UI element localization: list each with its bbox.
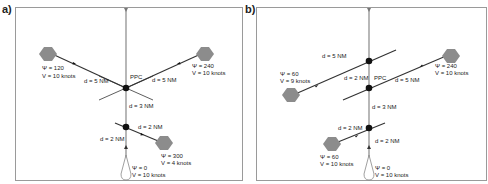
own-ship-v: V = 10 knots [132, 172, 166, 178]
lower-own-distance: d = 2 NM [375, 138, 400, 144]
own-ship-psi: Ψ = 0 [375, 165, 391, 171]
target-300-v: V = 4 knots [161, 160, 191, 166]
ppc-label: PPC [130, 74, 143, 80]
panel-a: Ψ = 120 V = 10 knots d = 5 NM Ψ = 240 V … [16, 8, 243, 181]
ppc-lower-distance: d = 3 NM [129, 103, 154, 109]
lower-own-distance: d = 2 NM [100, 136, 125, 142]
target-60-9kn-distance: d = 5 NM [322, 53, 347, 59]
diagram-canvas: Ψ = 120 V = 10 knots d = 5 NM Ψ = 240 V … [0, 0, 488, 184]
ppc-node [366, 85, 373, 92]
ppc-lower-distance: d = 3 NM [372, 104, 397, 110]
panel-a-frame [16, 8, 243, 181]
target-120-distance: d = 5 NM [84, 78, 109, 84]
target-240-psi: Ψ = 240 [192, 63, 215, 69]
cpa-node [366, 125, 373, 132]
target-240-distance: d = 5 NM [395, 77, 420, 83]
own-ship-psi: Ψ = 0 [132, 165, 148, 171]
target-60-10kn-psi: Ψ = 60 [320, 154, 339, 160]
target-60-10kn-distance: d = 2 NM [338, 125, 363, 131]
panel-b: d = 5 NM Ψ = 60 V = 9 knots d = 2 NM PPC… [257, 8, 487, 181]
target-240-psi: Ψ = 240 [435, 63, 458, 69]
own-ship-v: V = 10 knots [375, 172, 409, 178]
target-240-v: V = 10 knots [435, 70, 469, 76]
cpa-node [123, 124, 130, 131]
target-60-10kn-v: V = 10 knots [320, 161, 354, 167]
ppc-label: PPC [374, 75, 387, 81]
upper-node [366, 58, 373, 65]
upper-ppc-distance: d = 2 NM [344, 75, 369, 81]
target-300-distance: d = 2 NM [138, 124, 163, 130]
target-60-9kn-v: V = 9 knots [280, 78, 310, 84]
target-120-psi: Ψ = 120 [42, 65, 65, 71]
target-240-v: V = 10 knots [192, 70, 226, 76]
target-120-v: V = 10 knots [42, 73, 76, 79]
target-60-9kn-psi: Ψ = 60 [280, 71, 299, 77]
ppc-node [123, 85, 130, 92]
target-300-psi: Ψ = 300 [161, 153, 184, 159]
target-240-distance: d = 5 NM [152, 77, 177, 83]
